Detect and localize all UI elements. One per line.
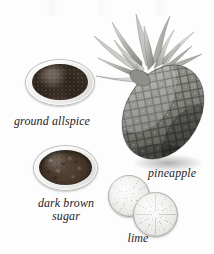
pineapple-fruit	[84, 12, 214, 172]
allspice-powder	[32, 64, 88, 100]
label-lime: lime	[107, 232, 169, 245]
ingredient-photo-plate: ground allspice dark brown sugar lime	[0, 0, 214, 254]
label-pineapple: pineapple	[148, 167, 212, 180]
label-dark-brown-sugar: dark brown sugar	[10, 197, 122, 224]
